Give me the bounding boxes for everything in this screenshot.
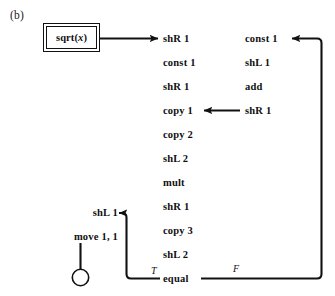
connector-layer	[0, 0, 335, 296]
arrow-false-branch	[201, 39, 322, 279]
terminal-circle-icon	[72, 269, 88, 285]
figure-canvas: (b) sqrt(x) shR 1 const 1 shR 1 copy 1 c…	[0, 0, 335, 296]
arrow-true-branch	[119, 213, 160, 279]
